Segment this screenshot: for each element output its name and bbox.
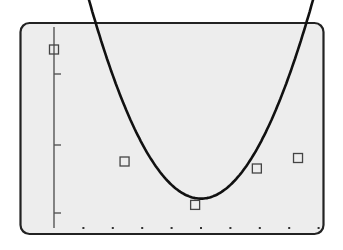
scatter-plot-with-fit-curve [0,0,343,250]
x-tick-dot [82,227,84,229]
x-tick-dot [288,227,290,229]
x-tick-dot [171,227,173,229]
x-tick-dot [141,227,143,229]
x-tick-dot [200,227,202,229]
x-tick-dot [318,227,320,229]
x-tick-dot [259,227,261,229]
x-tick-dot [112,227,114,229]
screen-frame [21,23,324,234]
x-tick-dot [229,227,231,229]
calculator-graph-screen [0,0,343,250]
